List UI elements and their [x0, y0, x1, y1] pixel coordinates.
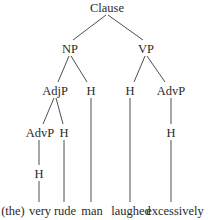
- node-vp-head: H: [125, 84, 134, 98]
- syntax-tree-diagram: Clause NP VP AdjP H H AdvP AdvP H H H (t…: [0, 0, 208, 220]
- edge-np-adjp: [58, 56, 69, 82]
- edge-np-h: [71, 56, 87, 82]
- edge-adjp-h: [56, 98, 63, 124]
- edge-clause-vp: [108, 15, 143, 40]
- word-excessively: excessively: [146, 204, 204, 218]
- node-adjp-advp-head: H: [34, 167, 43, 181]
- edge-vp-advp: [147, 56, 165, 82]
- node-clause: Clause: [90, 1, 124, 15]
- node-adjp: AdjP: [42, 84, 68, 98]
- tree-words: (the) very rude man laughed excessively: [1, 204, 204, 218]
- word-the: (the): [1, 204, 25, 218]
- node-np: NP: [62, 42, 78, 56]
- edge-clause-np: [73, 15, 106, 40]
- word-very: very: [29, 204, 52, 218]
- node-np-head: H: [86, 84, 95, 98]
- edge-adjp-advp: [43, 98, 54, 124]
- word-rude: rude: [54, 204, 77, 218]
- node-vp: VP: [138, 42, 154, 56]
- node-vp-advp: AdvP: [157, 84, 186, 98]
- word-man: man: [81, 204, 103, 218]
- tree-svg: Clause NP VP AdjP H H AdvP AdvP H H H (t…: [0, 0, 208, 220]
- node-adjp-advp: AdvP: [26, 126, 55, 140]
- node-adjp-head: H: [59, 126, 68, 140]
- node-vp-advp-head: H: [166, 126, 175, 140]
- edge-vp-h: [134, 56, 145, 82]
- tree-nodes: Clause NP VP AdjP H H AdvP AdvP H H H: [26, 1, 186, 181]
